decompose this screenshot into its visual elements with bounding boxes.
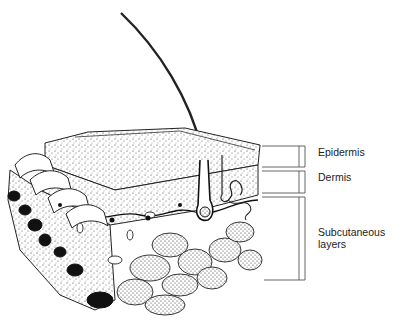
tissue-block [8, 128, 262, 315]
label-epidermis: Epidermis [318, 146, 365, 158]
skin-cross-section-illustration [0, 0, 402, 327]
label-subcutaneous: Subcutaneous [318, 226, 385, 238]
subcutaneous-bracket [262, 197, 305, 280]
epidermis-bracket [262, 146, 305, 167]
layer-brackets [262, 146, 305, 280]
label-layers: layers [318, 238, 346, 250]
dermis-bracket [262, 171, 305, 193]
fat-lobules [117, 222, 262, 315]
label-dermis: Dermis [318, 171, 351, 183]
